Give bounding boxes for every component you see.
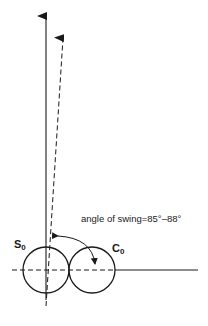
angle-of-swing-label: angle of swing=85°–88° [81, 213, 181, 224]
swung-arrow-dashed [46, 38, 63, 306]
angle-of-swing-arc [58, 236, 95, 264]
diagram-canvas [0, 0, 208, 326]
circle-label-s0-sub: 0 [21, 243, 25, 252]
circle-label-c0-sub: 0 [120, 247, 124, 256]
circle-label-s0: S0 [14, 238, 26, 252]
circle-label-c0-main: C [112, 242, 120, 254]
circle-label-c0: C0 [112, 242, 124, 256]
